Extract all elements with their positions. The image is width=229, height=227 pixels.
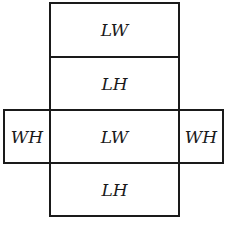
face-label: WH [185, 127, 217, 147]
face-left-wh: WH [3, 109, 51, 164]
face-label: WH [11, 127, 43, 147]
face-label: LW [101, 20, 128, 40]
face-top-lw: LW [49, 2, 180, 58]
face-label: LW [101, 127, 128, 147]
face-label: LH [101, 180, 127, 200]
face-label: LH [101, 74, 127, 94]
face-upper-lh: LH [49, 56, 180, 111]
face-center-lw: LW [49, 109, 180, 164]
face-right-wh: WH [178, 109, 224, 164]
face-bottom-lh: LH [49, 162, 180, 217]
